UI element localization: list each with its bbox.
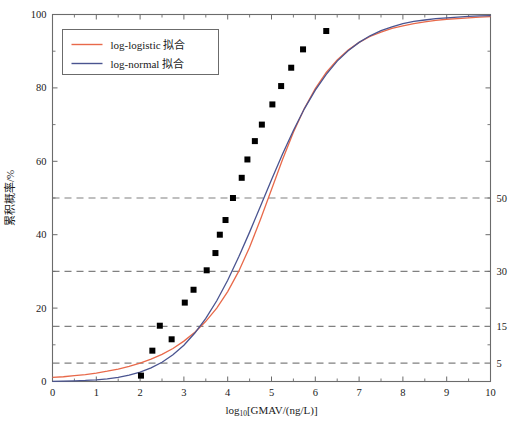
ssd-curve-chart: 0123456789100204060801005030155 log-logi…	[0, 0, 515, 435]
data-point-marker	[204, 267, 210, 273]
data-point-marker	[217, 232, 223, 238]
x-tick-label-5: 5	[269, 387, 274, 398]
legend-label-0: log-logistic 拟合	[111, 38, 186, 51]
right-axis-label-5: 5	[497, 358, 502, 369]
x-tick-label-8: 8	[400, 387, 405, 398]
data-point-marker	[191, 287, 197, 293]
y-tick-label-80: 80	[36, 82, 47, 93]
x-tick-label-0: 0	[50, 387, 55, 398]
data-point-marker	[138, 373, 144, 379]
x-tick-label-3: 3	[181, 387, 186, 398]
right-axis-label-50: 50	[497, 193, 508, 204]
figure-container: 0123456789100204060801005030155 log-logi…	[0, 0, 515, 435]
data-point-marker	[278, 83, 284, 89]
data-point-marker	[230, 195, 236, 201]
data-point-marker	[252, 138, 258, 144]
x-tick-label-6: 6	[313, 387, 318, 398]
data-point-marker	[212, 250, 218, 256]
chart-legend: log-logistic 拟合log-normal 拟合	[63, 30, 219, 75]
y-tick-label-40: 40	[36, 229, 47, 240]
gridlines-group	[53, 198, 491, 363]
legend-label-1: log-normal 拟合	[111, 57, 185, 70]
x-tick-label-2: 2	[137, 387, 142, 398]
y-tick-label-0: 0	[41, 376, 46, 387]
data-point-marker	[169, 336, 175, 342]
axis-titles-group: log10[GMAV/(ng/L)]累积概率/%	[3, 170, 318, 418]
y-axis-title: 累积概率/%	[3, 170, 16, 226]
data-point-marker	[269, 101, 275, 107]
x-axis-title: log10[GMAV/(ng/L)]	[225, 404, 317, 419]
data-point-marker	[300, 46, 306, 52]
x-tick-label-7: 7	[356, 387, 361, 398]
data-point-marker	[157, 323, 163, 329]
right-axis-label-15: 15	[497, 321, 508, 332]
x-tick-label-9: 9	[444, 387, 449, 398]
x-tick-label-10: 10	[485, 387, 496, 398]
y-tick-label-60: 60	[36, 156, 47, 167]
y-tick-label-20: 20	[36, 303, 47, 314]
data-point-marker	[323, 28, 329, 34]
data-point-marker	[149, 348, 155, 354]
data-point-marker	[244, 156, 250, 162]
x-tick-label-4: 4	[225, 387, 231, 398]
right-axis-label-30: 30	[497, 266, 508, 277]
data-point-marker	[182, 300, 188, 306]
data-point-marker	[239, 175, 245, 181]
data-point-marker	[288, 65, 294, 71]
data-point-marker	[259, 122, 265, 128]
y-tick-label-100: 100	[31, 9, 47, 20]
data-point-marker	[223, 217, 229, 223]
x-tick-label-1: 1	[94, 387, 99, 398]
